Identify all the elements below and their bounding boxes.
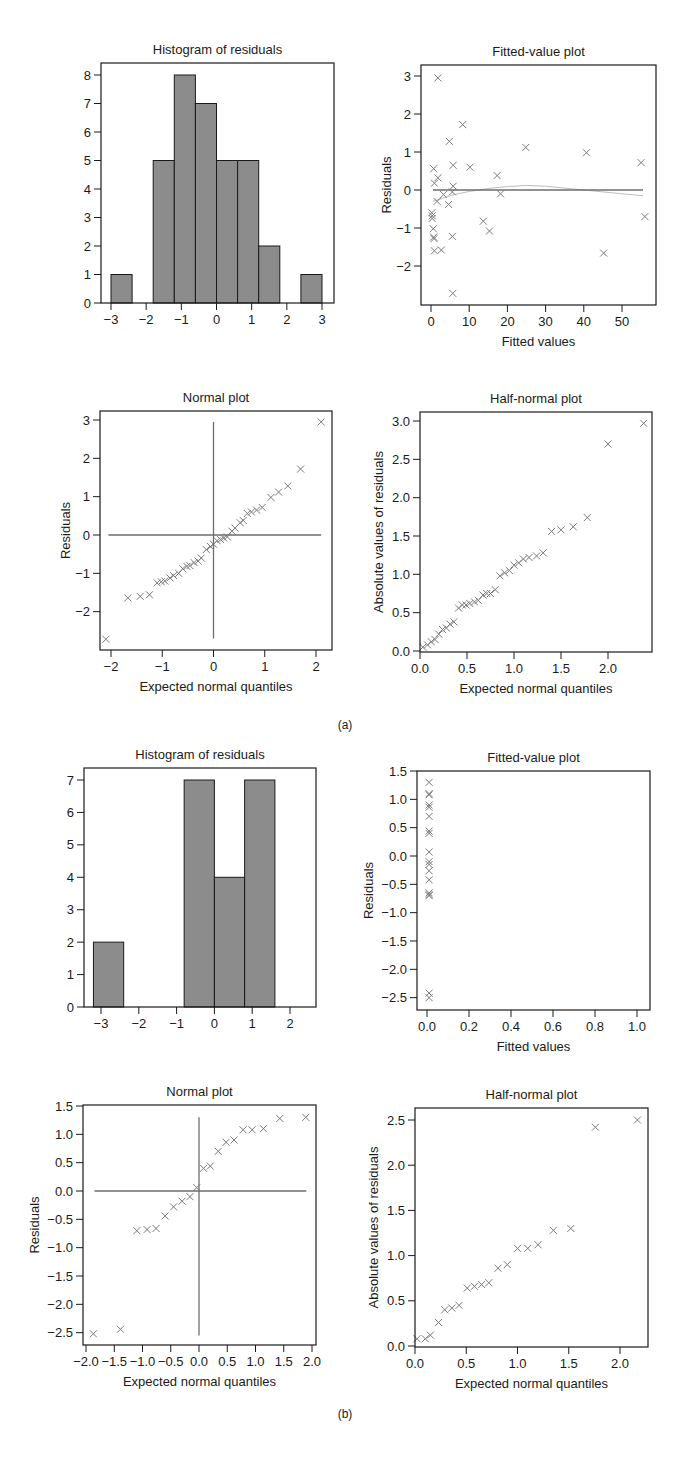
- cross-marker-icon: [284, 482, 291, 489]
- x-tick-label: 1.5: [560, 1356, 578, 1371]
- cross-marker-icon: [426, 779, 433, 786]
- y-tick-label: −2: [75, 604, 90, 619]
- y-tick-label: 5: [84, 153, 91, 168]
- plot-frame: [415, 1108, 648, 1347]
- cross-marker-icon: [432, 636, 439, 643]
- x-axis-label: Expected normal quantiles: [459, 681, 613, 696]
- y-tick-label: −2.0: [381, 962, 407, 977]
- y-tick-label: 3: [83, 413, 90, 428]
- y-axis-label: Residuals: [27, 1196, 42, 1254]
- cross-marker-icon: [427, 1332, 434, 1339]
- x-tick-label: 2.0: [599, 661, 617, 676]
- panel-a-normal-plot: Normal plot−2−1012−2−10123Expected norma…: [58, 390, 332, 694]
- cross-marker-icon: [302, 1114, 309, 1121]
- cross-marker-icon: [520, 556, 527, 563]
- cross-marker-icon: [522, 144, 529, 151]
- caption-a: (a): [338, 718, 353, 732]
- x-tick-label: −1.0: [130, 1354, 156, 1369]
- panel-title: Histogram of residuals: [153, 42, 283, 57]
- y-tick-label: 0.0: [55, 1184, 73, 1199]
- cross-marker-icon: [540, 549, 547, 556]
- y-tick-label: 1.0: [55, 1127, 73, 1142]
- x-tick-label: 30: [538, 314, 552, 329]
- cross-marker-icon: [480, 218, 487, 225]
- x-tick-label: 0.2: [460, 1019, 478, 1034]
- x-tick-label: 0.5: [218, 1354, 236, 1369]
- y-tick-label: 1.5: [387, 1203, 405, 1218]
- panel-a-histogram: Histogram of residuals−3−2−1012301234567…: [84, 42, 334, 327]
- y-tick-label: 7: [84, 96, 91, 111]
- x-tick-label: 10: [462, 314, 476, 329]
- y-tick-label: 2.5: [392, 452, 410, 467]
- cross-marker-icon: [558, 526, 565, 533]
- cross-marker-icon: [448, 1305, 455, 1312]
- cross-marker-icon: [440, 191, 447, 198]
- cross-marker-icon: [478, 1281, 485, 1288]
- x-tick-label: 0.4: [502, 1019, 520, 1034]
- cross-marker-icon: [584, 514, 591, 521]
- y-tick-label: 4: [84, 182, 91, 197]
- x-tick-label: 0: [210, 659, 217, 674]
- smoother-curve: [433, 185, 643, 201]
- plot-frame: [420, 412, 652, 652]
- histogram-bar: [153, 161, 174, 304]
- y-tick-label: 1.0: [387, 1248, 405, 1263]
- cross-marker-icon: [422, 1335, 429, 1342]
- x-tick-label: 0: [211, 1016, 218, 1031]
- cross-marker-icon: [497, 190, 504, 197]
- y-tick-label: 0: [84, 296, 91, 311]
- cross-marker-icon: [434, 198, 441, 205]
- cross-marker-icon: [426, 790, 433, 797]
- y-tick-label: 0.0: [389, 849, 407, 864]
- cross-marker-icon: [471, 1283, 478, 1290]
- cross-marker-icon: [203, 546, 210, 553]
- cross-marker-icon: [459, 121, 466, 128]
- cross-marker-icon: [445, 201, 452, 208]
- cross-marker-icon: [267, 494, 274, 501]
- y-tick-label: 1: [84, 267, 91, 282]
- histogram-bar: [93, 942, 123, 1007]
- cross-marker-icon: [249, 1126, 256, 1133]
- cross-marker-icon: [514, 1245, 521, 1252]
- y-tick-label: −1: [396, 221, 411, 236]
- x-tick-label: 1.5: [275, 1354, 293, 1369]
- panel-title: Half-normal plot: [490, 391, 582, 406]
- x-tick-label: 2: [283, 312, 290, 327]
- cross-marker-icon: [186, 1193, 193, 1200]
- cross-marker-icon: [583, 149, 590, 156]
- x-tick-label: −2.0: [73, 1354, 99, 1369]
- cross-marker-icon: [504, 1261, 511, 1268]
- y-tick-label: 0: [67, 1000, 74, 1015]
- x-axis-label: Expected normal quantiles: [455, 1376, 609, 1391]
- cross-marker-icon: [524, 1245, 531, 1252]
- y-tick-label: −1: [75, 566, 90, 581]
- cross-marker-icon: [144, 1226, 151, 1233]
- y-axis-label: Residuals: [58, 501, 73, 559]
- cross-marker-icon: [438, 247, 445, 254]
- y-tick-label: 1.0: [392, 567, 410, 582]
- y-axis-label: Residuals: [361, 861, 376, 919]
- y-tick-label: 2: [83, 451, 90, 466]
- x-axis-label: Expected normal quantiles: [139, 679, 293, 694]
- x-tick-label: 2.0: [611, 1356, 629, 1371]
- x-tick-label: −3: [94, 1016, 109, 1031]
- panel-title: Histogram of residuals: [135, 747, 265, 762]
- y-tick-label: −0.5: [47, 1212, 73, 1227]
- y-tick-label: 4: [67, 870, 74, 885]
- plot-frame: [417, 771, 650, 1010]
- cross-marker-icon: [223, 1139, 230, 1146]
- y-tick-label: 3: [404, 69, 411, 84]
- cross-marker-icon: [426, 849, 433, 856]
- cross-marker-icon: [526, 554, 533, 561]
- y-tick-label: 8: [84, 68, 91, 83]
- panel-a-half-normal-plot: Half-normal plot0.00.51.01.52.00.00.51.0…: [371, 391, 652, 696]
- y-tick-label: 0.5: [389, 820, 407, 835]
- y-tick-label: 0: [404, 183, 411, 198]
- cross-marker-icon: [231, 1137, 238, 1144]
- cross-marker-icon: [533, 552, 540, 559]
- cross-marker-icon: [447, 621, 454, 628]
- x-tick-label: 2: [312, 659, 319, 674]
- cross-marker-icon: [486, 228, 493, 235]
- x-tick-label: 0.0: [406, 1356, 424, 1371]
- cross-marker-icon: [550, 1227, 557, 1234]
